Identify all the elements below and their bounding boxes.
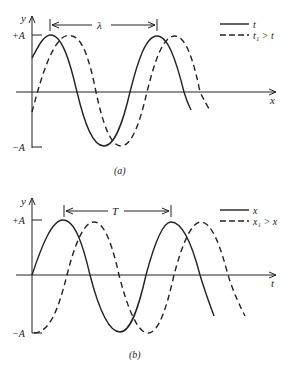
plus-a-tick: +A bbox=[12, 30, 26, 41]
plus-a-tick: +A bbox=[12, 215, 26, 226]
period-label: T bbox=[112, 205, 119, 217]
legend-dashed-label: t₁ > t bbox=[253, 30, 274, 41]
caption-b: (b) bbox=[129, 349, 141, 361]
y-label: y bbox=[20, 195, 26, 207]
panel-a: y x +A −A λ t t₁ > t (a) bbox=[12, 12, 276, 177]
x-label: t bbox=[271, 277, 275, 289]
panel-b: y t +A −A T x x₁ > x (b) bbox=[12, 195, 278, 361]
legend-solid-label: t bbox=[253, 19, 256, 30]
minus-a-tick: −A bbox=[12, 142, 26, 153]
wave-diagram: y x +A −A λ t t₁ > t (a) y t +A −A T bbox=[0, 0, 291, 366]
caption-a: (a) bbox=[114, 165, 126, 177]
dashed-wave bbox=[34, 222, 245, 333]
wavelength-label: λ bbox=[96, 19, 102, 31]
legend-dashed-label: x₁ > x bbox=[252, 216, 278, 227]
solid-wave bbox=[32, 220, 214, 332]
solid-wave bbox=[32, 35, 191, 146]
y-label: y bbox=[20, 12, 26, 24]
x-label: x bbox=[269, 94, 275, 106]
minus-a-tick: −A bbox=[12, 328, 26, 339]
legend-solid-label: x bbox=[252, 205, 258, 216]
